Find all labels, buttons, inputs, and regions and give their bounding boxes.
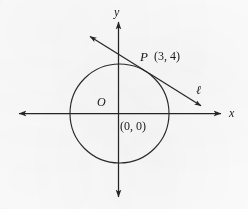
geometry-figure: y x P (3, 4) O (0, 0) ℓ	[0, 0, 248, 209]
tangent-line-label: ℓ	[196, 84, 201, 96]
tangent-line	[90, 37, 201, 106]
figure-canvas	[0, 0, 248, 209]
tangent-line-lower-ray	[148, 73, 201, 106]
y-axis-label: y	[114, 6, 119, 18]
origin-coords-label: (0, 0)	[120, 120, 146, 132]
point-p-coords-label: (3, 4)	[154, 50, 180, 62]
point-p-label: P	[140, 50, 148, 63]
x-axis-label: x	[229, 107, 234, 119]
origin-label: O	[97, 96, 106, 108]
